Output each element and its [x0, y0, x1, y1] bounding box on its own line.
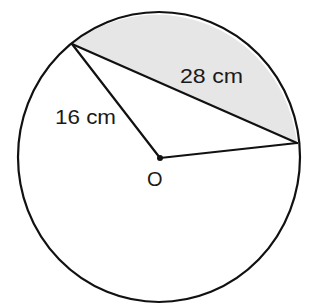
- chord-length-label: 28 cm: [180, 65, 243, 87]
- circle-segment-diagram: 28 cm 16 cm O: [0, 0, 323, 304]
- center-point: [157, 155, 163, 161]
- center-label: O: [147, 168, 163, 190]
- radius-length-label: 16 cm: [55, 106, 116, 128]
- radius-line-ob: [160, 143, 297, 158]
